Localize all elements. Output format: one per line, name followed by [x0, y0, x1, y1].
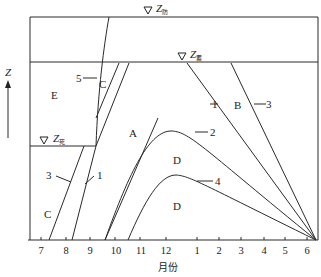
zone-label-e: E: [51, 89, 58, 101]
up-arrow-icon: [5, 80, 11, 88]
zone-label-a: A: [129, 127, 137, 139]
x-tick-label: 10: [111, 245, 122, 256]
curve-label-1-right: 1: [212, 98, 218, 110]
curve-label-3-right: 3: [266, 98, 272, 110]
x-tick-label: 1: [194, 245, 199, 256]
zone-label-d-lower: D: [173, 200, 181, 212]
x-tick-label: 11: [136, 245, 146, 256]
triangle-marker-icon: [144, 7, 152, 14]
curve-3-lower: [49, 146, 84, 240]
curve-label-2: 2: [210, 126, 216, 138]
curve-label-5: 5: [76, 72, 82, 84]
x-tick-label: 3: [238, 245, 243, 256]
curve-label-4: 4: [215, 175, 221, 187]
x-tick-label: 8: [63, 245, 68, 256]
curve-label-3-lower: 3: [46, 169, 52, 181]
x-tick-label: 2: [216, 245, 221, 256]
curve-label-1-lower: 1: [97, 169, 103, 181]
x-tick-label: 4: [261, 245, 267, 256]
dead-level-marker: Z死: [40, 132, 65, 146]
x-tick-label: 6: [304, 245, 309, 256]
curve-3-right: [231, 63, 316, 240]
triangle-marker-icon: [40, 137, 48, 144]
svg-text:Z防: Z防: [156, 2, 168, 16]
leader-1-lower: [85, 176, 94, 184]
zone-label-d-upper: D: [173, 154, 181, 166]
leader-3-lower: [56, 176, 71, 182]
x-tick-label: 7: [38, 245, 43, 256]
curve-1-right: [187, 63, 316, 240]
reservoir-dispatch-diagram: 7 8 9 10 11 12 1 2 3 4 5 6 月份 Z Z防 Z蓄 Z死: [0, 0, 321, 277]
triangle-marker-icon: [178, 53, 186, 60]
x-axis-label: 月份: [158, 262, 178, 273]
curve-4: [128, 175, 316, 240]
x-tick-label: 5: [282, 245, 287, 256]
x-tick-label: 12: [161, 245, 172, 256]
zone-label-c-upper: C: [99, 78, 106, 90]
curve-2: [105, 131, 316, 240]
zone-label-b: B: [234, 99, 241, 111]
z-axis-label: Z: [5, 66, 12, 78]
normal-storage-level-marker: Z蓄: [178, 48, 202, 62]
flood-level-marker: Z防: [144, 2, 168, 16]
svg-text:Z蓄: Z蓄: [190, 48, 202, 62]
zone-label-c-lower: C: [44, 208, 51, 220]
x-tick-label: 9: [87, 245, 92, 256]
svg-text:Z死: Z死: [53, 132, 65, 146]
curve-1-lower: [72, 146, 96, 240]
